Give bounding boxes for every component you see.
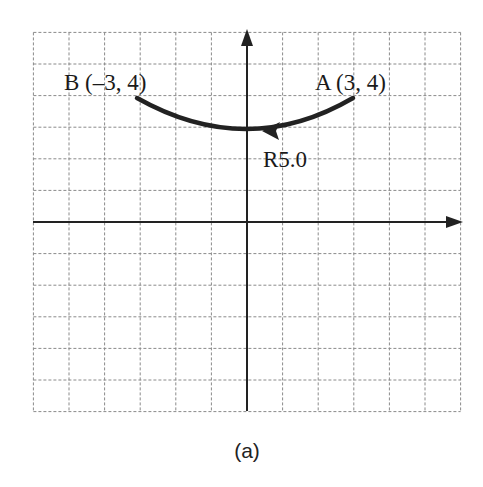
point-a-label: A (3, 4)	[315, 70, 386, 95]
point-b-label: B (–3, 4)	[64, 70, 146, 95]
arc-path	[137, 98, 353, 129]
arc-direction-arrow-icon	[262, 122, 280, 140]
figure-caption: (a)	[234, 439, 260, 462]
radius-label: R5.0	[263, 147, 307, 172]
coordinate-diagram: B (–3, 4) A (3, 4) R5.0 (a)	[0, 0, 483, 487]
arc	[137, 98, 353, 140]
y-axis-arrow-icon	[241, 29, 253, 46]
